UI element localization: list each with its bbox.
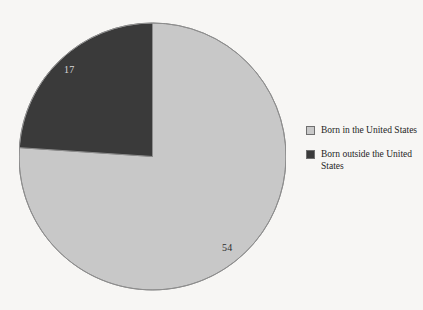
legend-item-born-in-us[interactable]: Born in the United States: [306, 124, 423, 136]
legend-swatch-born-in-us: [306, 126, 315, 135]
pie-slice-value-label-born-outside-us: 17: [64, 65, 75, 75]
legend-label-born-outside-us: Born outside the United States: [321, 148, 421, 172]
pie-slice-born-outside-us[interactable]: [19, 23, 152, 157]
legend-label-born-in-us: Born in the United States: [321, 124, 417, 136]
legend-item-born-outside-us[interactable]: Born outside the United States: [306, 148, 423, 172]
legend-swatch-born-outside-us: [306, 150, 315, 159]
pie-chart-svg: [19, 22, 286, 291]
chart-legend: Born in the United States Born outside t…: [306, 124, 423, 184]
pie-slice-value-label-born-in-us: 54: [222, 243, 233, 253]
pie-chart-figure: 54 17 Born in the United States Born out…: [0, 0, 423, 310]
pie-chart-plot-area: [19, 22, 286, 291]
